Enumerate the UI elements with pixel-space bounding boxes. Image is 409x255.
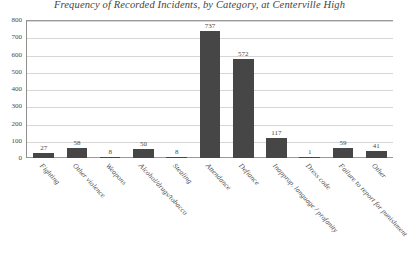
bar-slot: 117 [260,20,293,158]
bar-slot: 572 [227,20,260,158]
bar-slot: 737 [193,20,226,158]
y-axis-tick-label: 0 [19,155,23,162]
bar-value-label: 1 [293,149,326,156]
bar-slot: 50 [127,20,160,158]
bar[interactable] [233,59,254,158]
x-axis-label-slot: Attendance [193,160,226,255]
bar-value-label: 41 [360,143,393,150]
bar-slot: 8 [94,20,127,158]
bar[interactable] [100,157,121,158]
x-axis-label-slot: Other [360,160,393,255]
x-axis-label-slot: Weapons [94,160,127,255]
bar[interactable] [266,138,287,158]
y-axis-labels: 8007006005004003002001000 [0,20,24,158]
bar-value-label: 572 [227,51,260,58]
y-axis-tick-label: 700 [12,34,23,41]
bar[interactable] [333,148,354,158]
y-axis-tick-label: 400 [12,86,23,93]
chart-title: Frequency of Recorded Incidents, by Cate… [0,0,399,10]
y-axis-tick-label: 100 [12,137,23,144]
bar-value-label: 58 [60,140,93,147]
x-axis-labels: FightingOther violenceWeaponsAlcohol/dru… [27,160,393,255]
x-axis-tick-label: Stealing [171,162,193,185]
y-axis-tick-label: 800 [12,17,23,24]
bar[interactable] [299,157,320,158]
bar-value-label: 50 [127,141,160,148]
bar-value-label: 8 [160,149,193,156]
bar-slot: 59 [326,20,359,158]
bar-slot: 58 [60,20,93,158]
bar[interactable] [166,157,187,158]
x-axis-label-slot: Stealing [160,160,193,255]
bar[interactable] [366,151,387,158]
bar-slot: 41 [360,20,393,158]
x-axis-label-slot: Dress code [293,160,326,255]
x-axis-label-slot: Alcohol/drugs/tobacco [127,160,160,255]
x-axis-tick-label: Defiance [237,162,261,187]
x-axis-label-slot: Defiance [227,160,260,255]
x-axis-tick-label: Weapons [104,162,128,187]
bar[interactable] [133,149,154,158]
bar-value-label: 117 [260,130,293,137]
bar[interactable] [200,31,221,158]
bar-slot: 1 [293,20,326,158]
x-axis-tick-label: Other [370,162,388,180]
bar-slot: 8 [160,20,193,158]
x-axis-label-slot: Other violence [60,160,93,255]
bar-value-label: 27 [27,145,60,152]
x-axis-label-slot: Fighting [27,160,60,255]
bar-slot: 27 [27,20,60,158]
bar-value-label: 59 [326,140,359,147]
bar-value-label: 737 [193,23,226,30]
y-axis-tick-label: 200 [12,120,23,127]
bar-series: 2758850873757211715941 [27,20,393,158]
bar[interactable] [33,153,54,158]
bar-value-label: 8 [94,149,127,156]
x-axis-tick-label: Fighting [38,162,61,186]
x-axis-label-slot: Inapprop. language / profanity [260,160,293,255]
x-axis-label-slot: Failure to report for punishment [326,160,359,255]
y-axis-tick-label: 500 [12,68,23,75]
bar[interactable] [67,148,88,158]
y-axis-tick-label: 600 [12,51,23,58]
y-axis-tick-label: 300 [12,103,23,110]
